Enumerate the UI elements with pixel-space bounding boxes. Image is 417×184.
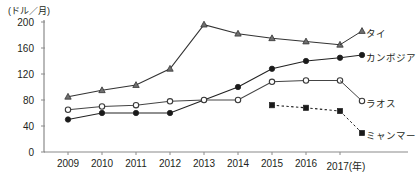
plot-area (0, 0, 417, 184)
series-marker-カンボジア (99, 110, 104, 115)
series-marker-カンボジア (133, 110, 138, 115)
series-line-カンボジア (68, 58, 340, 120)
series-marker-カンボジア (303, 58, 308, 63)
series-marker-ミャンマー (269, 103, 274, 108)
legend-marker-ミャンマー (359, 130, 364, 135)
legend-leader-カンボジア (340, 55, 362, 58)
legend-marker-タイ (359, 28, 365, 34)
series-marker-タイ (201, 21, 207, 27)
series-marker-カンボジア (65, 117, 70, 122)
legend-leader-ラオス (340, 81, 362, 102)
legend-leader-ミャンマー (340, 111, 362, 133)
series-marker-ミャンマー (337, 108, 342, 113)
series-marker-ラオス (235, 97, 240, 102)
legend-marker-カンボジア (359, 52, 364, 57)
legend-marker-ラオス (359, 98, 364, 103)
series-marker-ラオス (167, 99, 172, 104)
series-marker-ラオス (99, 104, 104, 109)
series-marker-カンボジア (167, 110, 172, 115)
series-marker-ラオス (133, 103, 138, 108)
series-marker-ラオス (303, 78, 308, 83)
line-chart: (ドル／月) 200 160 120 80 40 0 2009 2010 201… (0, 0, 417, 184)
series-marker-ラオス (269, 79, 274, 84)
series-marker-ラオス (201, 97, 206, 102)
series-marker-ラオス (65, 107, 70, 112)
series-marker-カンボジア (269, 66, 274, 71)
series-marker-カンボジア (235, 84, 240, 89)
series-line-タイ (68, 25, 340, 97)
series-marker-ミャンマー (303, 105, 308, 110)
series-line-ラオス (68, 81, 340, 110)
